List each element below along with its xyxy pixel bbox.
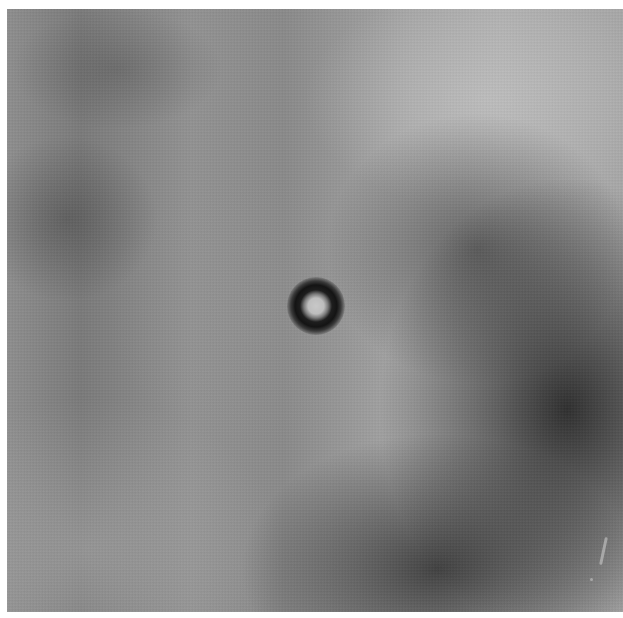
photo-frame	[7, 9, 623, 612]
dust-speck	[590, 578, 593, 581]
ring-particle	[287, 277, 345, 335]
